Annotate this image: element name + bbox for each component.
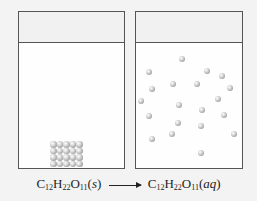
sucrose-molecule [63,148,70,155]
reactant-formula: C12H22O11(s) [36,176,101,191]
sucrose-molecule [50,141,57,148]
sucrose-molecule [63,154,70,161]
sucrose-molecule [204,68,210,74]
sucrose-molecule [146,69,152,75]
sucrose-molecule [50,154,57,161]
right-arrow-icon [109,185,141,186]
left-beaker [18,11,125,169]
sucrose-molecule [149,86,155,92]
right-beaker-headspace [136,12,242,43]
product-formula: C12H22O11(aq) [148,176,221,191]
sucrose-molecule [198,150,204,156]
sucrose-molecule [149,136,155,142]
sucrose-molecule [146,113,152,119]
sucrose-molecule [57,154,64,161]
sucrose-molecule [176,102,182,108]
sucrose-molecule [215,96,221,102]
chemical-equation: C12H22O11(s) C12H22O11(aq) [0,176,257,192]
sucrose-molecule [198,123,204,129]
sucrose-molecule [63,141,70,148]
sucrose-molecule [50,148,57,155]
solid-sucrose-block [50,141,83,167]
sucrose-molecule [175,120,181,126]
sucrose-molecule [221,112,227,118]
sucrose-molecule [170,81,176,87]
left-beaker-headspace [19,12,124,43]
sucrose-molecule [76,141,83,148]
sucrose-molecule [57,148,64,155]
sucrose-molecule [227,85,233,91]
sucrose-molecule [169,131,175,137]
sucrose-molecule [63,161,70,168]
sucrose-molecule [50,161,57,168]
sucrose-molecule [194,81,200,87]
sucrose-molecule [231,131,237,137]
sucrose-molecule [57,161,64,168]
sucrose-molecule [70,148,77,155]
sucrose-molecule [70,161,77,168]
sucrose-molecule [219,73,225,79]
sucrose-molecule [76,148,83,155]
sucrose-molecule [138,98,144,104]
right-beaker [135,11,243,169]
sucrose-molecule [199,107,205,113]
sucrose-molecule [57,141,64,148]
sucrose-molecule [70,141,77,148]
sucrose-molecule [179,56,185,62]
sucrose-molecule [76,161,83,168]
sucrose-molecule [70,154,77,161]
sucrose-molecule [76,154,83,161]
